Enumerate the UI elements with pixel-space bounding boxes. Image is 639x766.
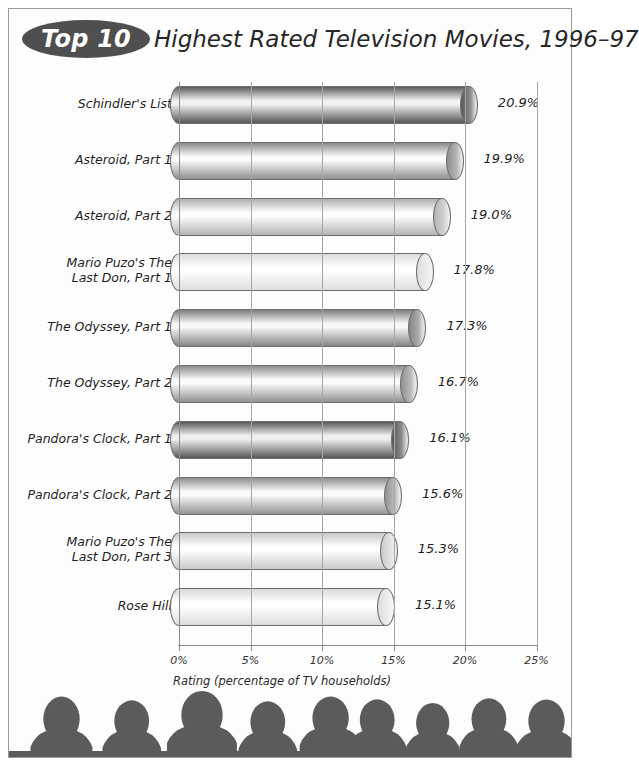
bar-cylinder[interactable]: [179, 309, 426, 347]
x-tick-label: 5%: [226, 654, 276, 667]
bar-row: Pandora's Clock, Part 215.6%: [0, 473, 564, 519]
category-label: Asteroid, Part 1: [0, 152, 172, 167]
bar-cylinder[interactable]: [179, 532, 398, 570]
x-tick-label: 15%: [369, 654, 419, 667]
category-label: Mario Puzo's TheLast Don, Part 1: [0, 255, 172, 285]
category-label-line: Asteroid, Part 2: [0, 208, 172, 223]
bar-body: [179, 365, 409, 403]
tick-mark: [179, 645, 180, 651]
tick-mark: [251, 645, 252, 651]
tick-mark: [322, 645, 323, 651]
gridline-15%: [394, 82, 395, 645]
audience-silhouette-band: [9, 689, 571, 757]
bar-cylinder[interactable]: [179, 86, 478, 124]
x-tick-label: 20%: [440, 654, 490, 667]
category-label-line: Pandora's Clock, Part 1: [0, 431, 172, 446]
bar-body: [179, 86, 469, 124]
category-label: Asteroid, Part 2: [0, 208, 172, 223]
gridline-5%: [251, 82, 252, 645]
bar-value-label: 19.9%: [484, 151, 525, 166]
category-label: The Odyssey, Part 2: [0, 375, 172, 390]
x-tick-label: 10%: [297, 654, 347, 667]
bar-body: [179, 421, 400, 459]
bar-body: [179, 309, 417, 347]
bar-body: [179, 588, 386, 626]
category-label-line: The Odyssey, Part 1: [0, 319, 172, 334]
bar-value-label: 15.3%: [418, 541, 459, 556]
gridline-20%: [465, 82, 466, 645]
top10-badge-label: Top 10: [22, 20, 150, 58]
category-label-line: Mario Puzo's The: [0, 534, 172, 549]
audience-silhouettes-svg: [9, 689, 571, 757]
bar-cylinder[interactable]: [179, 477, 402, 515]
tick-mark: [537, 645, 538, 651]
bar-end-cap: [433, 198, 451, 236]
bar-cylinder[interactable]: [179, 421, 409, 459]
top10-badge: Top 10: [22, 20, 150, 58]
gridline-0%: [179, 82, 180, 645]
bar-value-label: 16.7%: [438, 374, 479, 389]
bar-end-cap: [416, 253, 434, 291]
x-axis-line: [178, 645, 538, 646]
category-label: Schindler's List: [0, 96, 172, 111]
bar-row: The Odyssey, Part 216.7%: [0, 361, 564, 407]
bar-value-label: 15.1%: [415, 597, 456, 612]
x-tick-label: 25%: [512, 654, 562, 667]
bar-row: Mario Puzo's TheLast Don, Part 315.3%: [0, 528, 564, 574]
category-label-line: Mario Puzo's The: [0, 255, 172, 270]
bar-end-cap: [408, 309, 426, 347]
bar-row: Mario Puzo's TheLast Don, Part 117.8%: [0, 249, 564, 295]
category-label: Mario Puzo's TheLast Don, Part 3: [0, 534, 172, 564]
category-label-line: Rose Hill: [0, 598, 172, 613]
bar-cylinder[interactable]: [179, 365, 418, 403]
bar-cylinder[interactable]: [179, 253, 434, 291]
bar-value-label: 20.9%: [498, 95, 539, 110]
chart-title: Top 10 Highest Rated Television Movies, …: [14, 14, 566, 66]
category-label: Pandora's Clock, Part 2: [0, 487, 172, 502]
bar-value-label: 15.6%: [422, 486, 463, 501]
category-label-line: Asteroid, Part 1: [0, 152, 172, 167]
bar-end-cap: [380, 532, 398, 570]
bar-body: [179, 198, 442, 236]
category-label: Rose Hill: [0, 598, 172, 613]
x-tick-label: 0%: [154, 654, 204, 667]
tick-mark: [394, 645, 395, 651]
bar-row: Asteroid, Part 219.0%: [0, 194, 564, 240]
bar-body: [179, 253, 425, 291]
gridline-25%: [537, 82, 538, 645]
bar-value-label: 19.0%: [471, 207, 512, 222]
category-label-line: The Odyssey, Part 2: [0, 375, 172, 390]
gridline-10%: [322, 82, 323, 645]
bar-end-cap: [446, 142, 464, 180]
bar-row: Pandora's Clock, Part 116.1%: [0, 417, 564, 463]
bar-end-cap: [377, 588, 395, 626]
category-label: The Odyssey, Part 1: [0, 319, 172, 334]
category-label-line: Schindler's List: [0, 96, 172, 111]
bar-value-label: 17.8%: [454, 262, 495, 277]
bar-end-cap: [460, 86, 478, 124]
tick-mark: [465, 645, 466, 651]
bar-body: [179, 532, 389, 570]
bar-row: The Odyssey, Part 117.3%: [0, 305, 564, 351]
bar-end-cap: [400, 365, 418, 403]
bar-row: Schindler's List20.9%: [0, 82, 564, 128]
bar-body: [179, 477, 393, 515]
bar-cylinder[interactable]: [179, 198, 451, 236]
bar-body: [179, 142, 455, 180]
category-label-line: Pandora's Clock, Part 2: [0, 487, 172, 502]
bar-row: Asteroid, Part 119.9%: [0, 138, 564, 184]
bar-row: Rose Hill15.1%: [0, 584, 564, 630]
bar-cylinder[interactable]: [179, 588, 395, 626]
bar-value-label: 17.3%: [446, 318, 487, 333]
category-label: Pandora's Clock, Part 1: [0, 431, 172, 446]
page-title: Highest Rated Television Movies, 1996–97: [154, 19, 639, 59]
plot-area: Schindler's List20.9%Asteroid, Part 119.…: [0, 74, 564, 674]
x-axis-label: Rating (percentage of TV households): [0, 674, 564, 688]
category-label-line: Last Don, Part 3: [0, 549, 172, 564]
category-label-line: Last Don, Part 1: [0, 270, 172, 285]
